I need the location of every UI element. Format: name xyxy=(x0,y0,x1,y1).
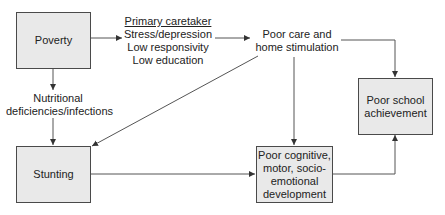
node-school-line: achievement xyxy=(364,107,426,120)
caretaker-line: Stress/depression xyxy=(122,28,214,41)
caretaker-line: Low responsivity xyxy=(122,41,214,54)
node-school-line: Poor school xyxy=(366,94,424,107)
edge-cognitive-school xyxy=(332,135,395,174)
node-cognitive-development: Poor cognitive, motor, socio- emotional … xyxy=(256,146,333,203)
node-poverty: Poverty xyxy=(16,12,91,69)
edge-poorcare-stunting xyxy=(92,56,258,146)
poor-care-line: home stimulation xyxy=(252,41,342,54)
nutritional-line: Nutritional xyxy=(6,92,110,105)
node-cognitive-line: emotional xyxy=(271,175,319,188)
caretaker-title: Primary caretaker xyxy=(122,15,214,28)
label-poor-care: Poor care and home stimulation xyxy=(252,28,342,54)
node-poverty-label: Poverty xyxy=(35,34,72,47)
label-nutritional: Nutritional deficiencies/infections xyxy=(6,92,110,118)
edge-poorcare-school xyxy=(341,40,395,77)
node-stunting: Stunting xyxy=(16,146,91,203)
node-cognitive-line: development xyxy=(263,188,326,201)
node-cognitive-line: motor, socio- xyxy=(263,162,326,175)
node-stunting-label: Stunting xyxy=(33,168,73,181)
poor-care-line: Poor care and xyxy=(252,28,342,41)
nutritional-line: deficiencies/infections xyxy=(6,105,110,118)
caretaker-line: Low education xyxy=(122,54,214,67)
label-primary-caretaker: Primary caretaker Stress/depression Low … xyxy=(122,15,214,67)
node-cognitive-line: Poor cognitive, xyxy=(258,149,331,162)
node-school-achievement: Poor school achievement xyxy=(358,78,433,135)
